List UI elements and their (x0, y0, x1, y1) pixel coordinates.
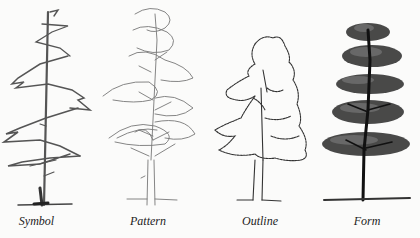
tree-drawing-figure: Symbol Pattern (0, 0, 420, 238)
panel-outline: Outline (205, 0, 315, 238)
pattern-tree-icon (95, 0, 205, 210)
caption-form: Form (312, 214, 420, 229)
panel-symbol: Symbol (0, 0, 105, 238)
caption-pattern: Pattern (93, 214, 203, 229)
symbol-tree-icon (0, 0, 105, 210)
caption-outline: Outline (205, 214, 315, 229)
panel-form: Form (310, 0, 420, 238)
outline-tree-icon (205, 0, 315, 210)
form-tree-icon (310, 0, 420, 210)
panel-pattern: Pattern (95, 0, 205, 238)
caption-symbol: Symbol (0, 214, 89, 229)
